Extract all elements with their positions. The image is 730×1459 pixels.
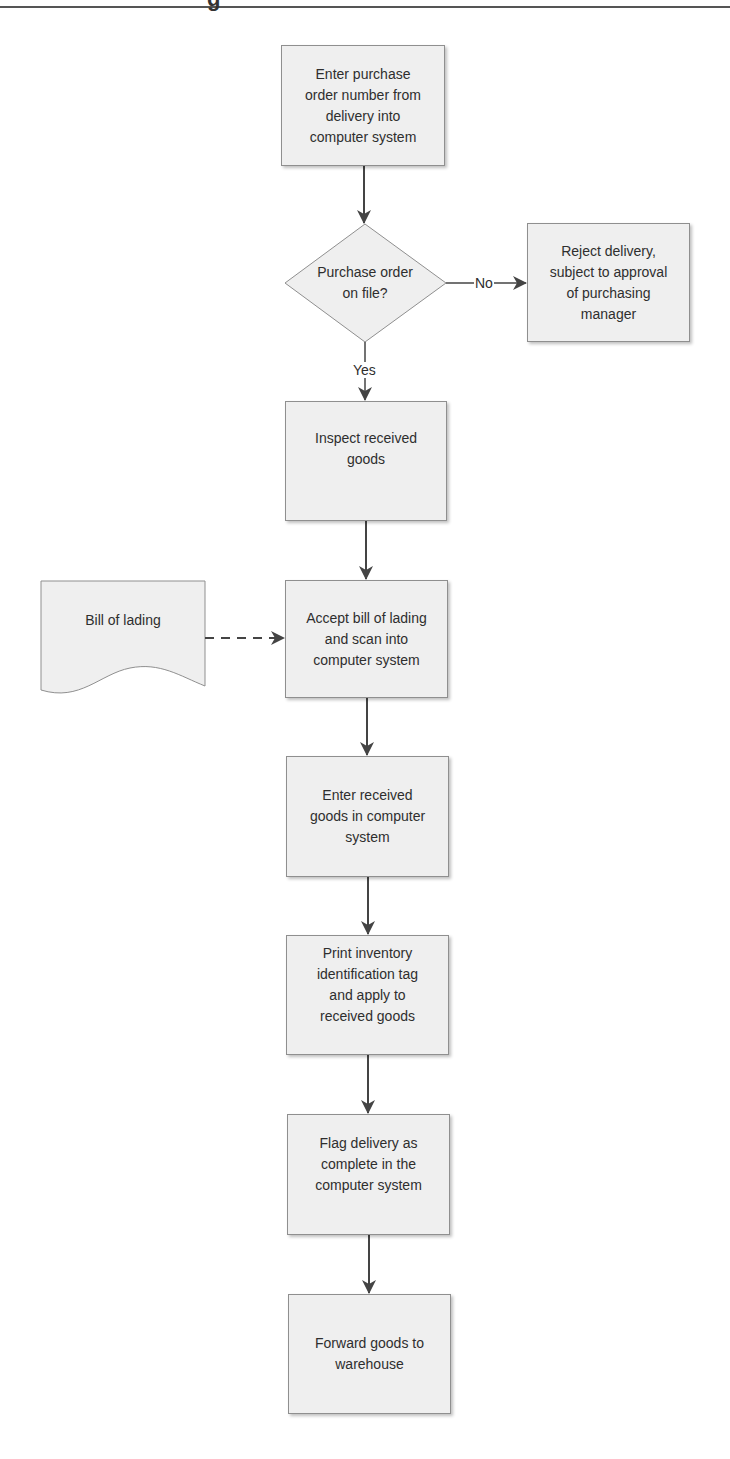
step-enter-received-goods: Enter received goods in computer system [286,756,449,877]
step-flag-delivery-complete-text: Flag delivery as complete in the compute… [315,1133,422,1196]
step-accept-bill-of-lading-text: Accept bill of lading and scan into comp… [306,608,427,671]
step-reject-delivery-text: Reject delivery, subject to approval of … [550,241,668,325]
step-flag-delivery-complete: Flag delivery as complete in the compute… [287,1114,450,1235]
step-print-inventory-tag-text: Print inventory identification tag and a… [317,943,418,1027]
step-inspect-goods-text: Inspect received goods [315,428,417,470]
edge-label-no: No [474,275,494,291]
document-bill-of-lading-text: Bill of lading [85,610,161,631]
step-enter-po-number-text: Enter purchase order number from deliver… [305,64,421,148]
edge-label-yes: Yes [352,362,377,378]
flowchart-connectors [0,0,730,1459]
step-reject-delivery: Reject delivery, subject to approval of … [527,223,690,342]
step-forward-to-warehouse: Forward goods to warehouse [288,1294,451,1414]
step-inspect-goods: Inspect received goods [285,401,447,521]
decision-po-on-file-text: Purchase order on file? [317,262,413,304]
step-accept-bill-of-lading: Accept bill of lading and scan into comp… [285,580,448,698]
step-print-inventory-tag: Print inventory identification tag and a… [286,935,449,1055]
document-bill-of-lading: Bill of lading [41,600,205,640]
step-forward-to-warehouse-text: Forward goods to warehouse [315,1333,424,1375]
step-enter-received-goods-text: Enter received goods in computer system [310,785,425,848]
step-enter-po-number: Enter purchase order number from deliver… [281,45,445,166]
decision-po-on-file: Purchase order on file? [295,258,435,308]
